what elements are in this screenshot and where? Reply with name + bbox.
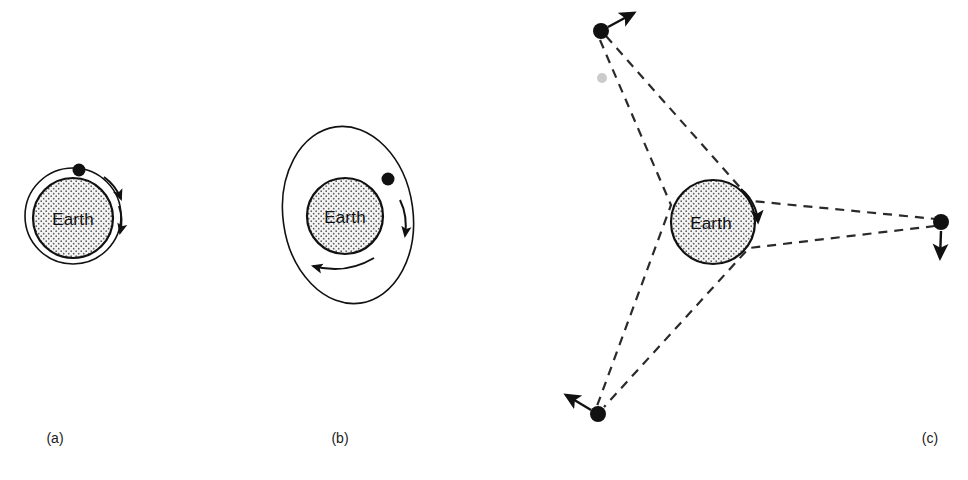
- satellite-geostationary-top: [593, 23, 609, 39]
- satellite-low-orbit: [73, 164, 86, 177]
- scan-smudge: [597, 73, 607, 83]
- sight-line-top-to-bottom-left: [597, 40, 671, 406]
- panel-a: Earth (a): [25, 164, 121, 447]
- orbit-direction-arrow-right: [400, 200, 406, 236]
- orbit-direction-arrow-bottom: [313, 258, 374, 269]
- panel-caption-a: (a): [46, 430, 63, 446]
- velocity-arrow-top: [608, 13, 634, 27]
- earth-label: Earth: [324, 208, 366, 227]
- velocity-arrow-right: [940, 231, 941, 258]
- earth-label: Earth: [690, 214, 732, 233]
- panel-caption-c: (c): [922, 430, 938, 446]
- satellite-geostationary-bottom-left: [590, 406, 606, 422]
- figure-root: Earth (a) Earth (b): [0, 0, 968, 480]
- sight-line-top-to-right: [606, 36, 936, 219]
- velocity-arrow-bottom-left: [566, 395, 591, 410]
- panel-caption-b: (b): [331, 430, 348, 446]
- satellite-geostationary-right: [933, 214, 949, 230]
- panel-b: Earth (b): [271, 118, 425, 446]
- satellite-elliptical-orbit: [382, 173, 395, 186]
- panel-c: Earth (c): [566, 13, 949, 446]
- earth-label: Earth: [52, 210, 94, 229]
- orbit-diagram-canvas: Earth (a) Earth (b): [0, 0, 968, 480]
